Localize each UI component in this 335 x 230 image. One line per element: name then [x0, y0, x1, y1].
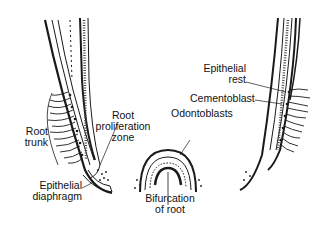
label-root-trunk: Root trunk	[14, 126, 48, 148]
label-line: Cementoblast	[190, 93, 255, 104]
label-epithelial-diaphragm: Epithelial diaphragm	[18, 180, 82, 202]
right-root-drawing	[240, 18, 310, 190]
label-line: trunk	[14, 137, 48, 148]
label-line: rest	[196, 74, 246, 85]
label-cementoblast: Cementoblast	[190, 93, 255, 104]
left-root-drawing	[45, 18, 112, 193]
label-line: zone	[93, 132, 153, 143]
label-odontoblasts: Odontoblasts	[171, 108, 233, 119]
label-bifurcation-of-root: Bifurcation of root	[140, 193, 200, 215]
label-line: of root	[140, 204, 200, 215]
label-epithelial-rest: Epithelial rest	[196, 63, 246, 85]
label-line: diaphragm	[18, 191, 82, 202]
label-line: Odontoblasts	[171, 108, 233, 119]
label-root-proliferation-zone: Root proliferation zone	[93, 110, 153, 143]
